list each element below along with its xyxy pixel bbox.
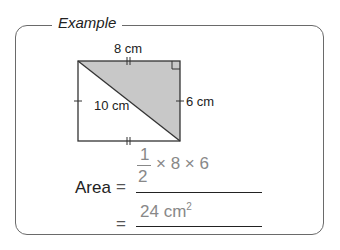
answer-line-1 — [136, 192, 262, 193]
multiplication-expression: × 8 × 6 — [156, 154, 209, 174]
area-exponent: 2 — [186, 201, 192, 212]
area-result: 24 cm2 — [140, 201, 192, 222]
fraction-bar — [137, 165, 151, 166]
fraction-denominator: 2 — [138, 167, 147, 187]
equals-sign-2: = — [116, 214, 126, 234]
area-value: 24 cm — [140, 202, 186, 221]
answer-line-2 — [136, 226, 262, 227]
area-label: Area — [75, 178, 111, 198]
diagonal-length-label: 10 cm — [94, 98, 129, 113]
equals-sign: = — [116, 177, 126, 197]
fraction-numerator: 1 — [140, 145, 149, 165]
right-length-label: 6 cm — [186, 94, 214, 109]
top-length-label: 8 cm — [114, 41, 142, 56]
